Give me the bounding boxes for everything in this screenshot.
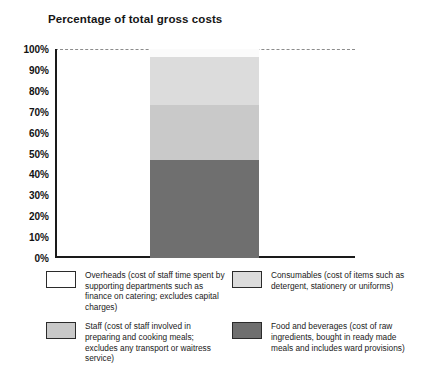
legend-swatch-food-and-beverages: [232, 322, 262, 339]
y-axis-line: [55, 49, 57, 258]
y-tick-label: 10%: [29, 232, 49, 243]
legend-item-consumables[interactable]: Consumables (cost of items such as deter…: [232, 270, 412, 312]
chart-container: Percentage of total gross costs 100%90%8…: [0, 0, 423, 380]
bar-segment-food-and-beverages: [150, 160, 259, 258]
legend-label-consumables: Consumables (cost of items such as deter…: [271, 270, 411, 291]
chart-legend: Overheads (cost of staff time spent by s…: [46, 270, 412, 364]
stacked-bar-total-gross-costs: [150, 49, 259, 258]
bar-segment-overheads: [150, 49, 259, 57]
y-tick-label: 80%: [29, 85, 49, 96]
y-tick-label: 100%: [23, 44, 49, 55]
legend-label-overheads: Overheads (cost of staff time spent by s…: [85, 270, 225, 312]
bar-segment-staff: [150, 105, 259, 159]
chart-title: Percentage of total gross costs: [48, 13, 222, 25]
y-tick-label: 20%: [29, 211, 49, 222]
legend-label-staff: Staff (cost of staff involved in prepari…: [85, 321, 225, 363]
legend-swatch-staff: [46, 322, 76, 339]
legend-swatch-overheads: [46, 271, 76, 288]
bar-segment-consumables: [150, 57, 259, 105]
legend-swatch-consumables: [232, 271, 262, 288]
y-tick-label: 30%: [29, 190, 49, 201]
legend-item-food-and-beverages[interactable]: Food and beverages (cost of raw ingredie…: [232, 321, 412, 363]
y-tick-label: 0%: [35, 253, 49, 264]
legend-label-food-and-beverages: Food and beverages (cost of raw ingredie…: [271, 321, 411, 353]
y-tick-label: 50%: [29, 148, 49, 159]
y-tick-label: 70%: [29, 106, 49, 117]
legend-item-staff[interactable]: Staff (cost of staff involved in prepari…: [46, 321, 232, 363]
legend-item-overheads[interactable]: Overheads (cost of staff time spent by s…: [46, 270, 232, 312]
y-tick-label: 40%: [29, 169, 49, 180]
y-tick-label: 60%: [29, 127, 49, 138]
y-tick-label: 90%: [29, 64, 49, 75]
plot-area: 100%90%80%70%60%50%40%30%20%10%0%: [55, 49, 355, 258]
